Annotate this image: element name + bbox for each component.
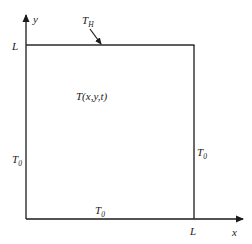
top-boundary-pointer-arrow <box>90 29 101 44</box>
x-axis-label: x <box>231 226 237 238</box>
left-boundary-label: T0 <box>12 153 22 168</box>
left-boundary-subscript: 0 <box>18 159 22 168</box>
top-boundary-subscript: H <box>87 20 94 29</box>
top-boundary-label: TH <box>82 14 94 29</box>
domain-temperature-label: T(x,y,t) <box>76 90 107 103</box>
bottom-boundary-label: T0 <box>95 204 105 219</box>
heat-domain-diagram: y x L L T(x,y,t) TH T0 T0 T0 <box>0 0 252 244</box>
bottom-boundary-subscript: 0 <box>101 210 105 219</box>
x-axis-L-label: L <box>189 225 196 237</box>
right-boundary-label: T0 <box>197 146 207 161</box>
right-boundary-subscript: 0 <box>203 152 207 161</box>
y-axis-L-label: L <box>11 40 18 52</box>
y-axis-label: y <box>32 13 38 25</box>
